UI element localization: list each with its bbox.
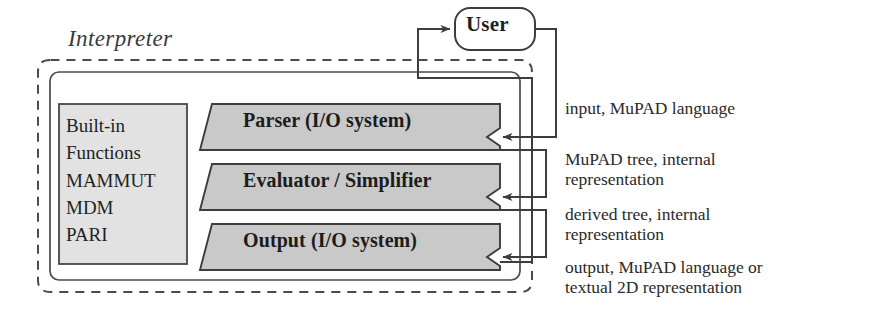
- diagram-canvas: Interpreter User Built-in Functions MAMM…: [0, 0, 878, 319]
- connector-evaluator-to-output: [500, 210, 546, 257]
- builtin-functions-label: Built-in Functions MAMMUT MDM PARI: [66, 112, 156, 249]
- annotation-derived-tree: derived tree, internal representation: [565, 204, 710, 245]
- evaluator-module-label: Evaluator / Simplifier: [243, 170, 432, 191]
- parser-module-label: Parser (I/O system): [243, 110, 411, 131]
- annotation-mupad-tree: MuPAD tree, internal representation: [565, 149, 716, 190]
- annotation-output: output, MuPAD language or textual 2D rep…: [565, 257, 763, 298]
- user-box-label: User: [466, 14, 509, 36]
- annotation-input: input, MuPAD language: [565, 98, 735, 118]
- output-module-label: Output (I/O system): [243, 230, 417, 251]
- connector-parser-to-evaluator: [500, 150, 546, 197]
- interpreter-region-label: Interpreter: [68, 27, 172, 51]
